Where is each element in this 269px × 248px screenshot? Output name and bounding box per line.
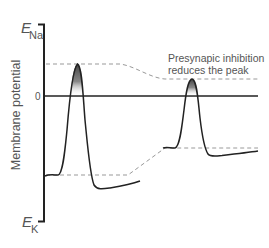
action-potential-trace-1 (45, 64, 140, 189)
e-na-subscript: Na (29, 29, 44, 41)
resting-level-dashed (46, 148, 258, 175)
annotation-line-1: Presynapic inhibition (168, 52, 264, 64)
y-axis-label: Membrane potential (9, 60, 23, 170)
action-potential-trace-2 (163, 79, 258, 156)
zero-tick-label: 0 (35, 91, 41, 102)
annotation-line-2: reduces the peak (168, 64, 249, 76)
e-k-subscript: K (31, 223, 39, 235)
action-potential-diagram: E Na E K 0 Membrane potential Presynapic… (0, 0, 269, 248)
y-axis (38, 24, 45, 222)
